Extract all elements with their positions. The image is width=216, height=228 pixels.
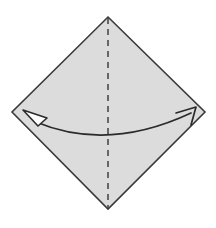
origami-diagram-svg: Origami step: fold square diagonally alo…: [0, 0, 216, 228]
origami-diagram-canvas: Origami step: fold square diagonally alo…: [0, 0, 216, 228]
